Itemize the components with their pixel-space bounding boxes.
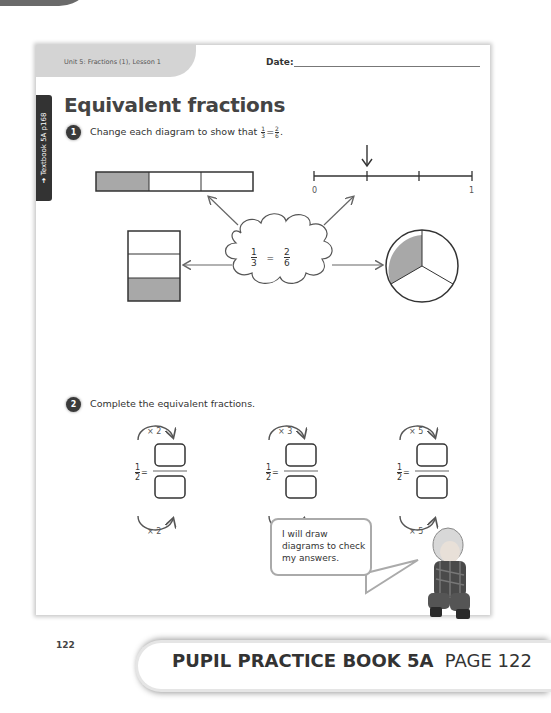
multiplier-bottom-3: × 5 (409, 527, 423, 536)
speech-tail (366, 560, 418, 593)
circle-diagram[interactable] (386, 230, 458, 302)
number-line-end: 1 (469, 186, 474, 195)
fraction-half-1: 12= (134, 463, 148, 482)
footer-caption: PUPIL PRACTICE BOOK 5A PAGE 122 (172, 650, 532, 671)
worksheet-page: Unit 5: Fractions (1), Lesson 1 Date: ➜ … (36, 45, 490, 615)
bar-model-diagram[interactable] (96, 172, 253, 191)
number-line-start: 0 (312, 186, 317, 195)
multiplier-top-3: × 5 (409, 427, 423, 436)
multiplier-top-1: × 2 (147, 427, 161, 436)
footer-book-title: PUPIL PRACTICE BOOK 5A (172, 650, 433, 671)
question-2-text: Complete the equivalent fractions. (90, 398, 255, 409)
vertical-bar-diagram[interactable] (128, 231, 180, 301)
footer-page-label: PAGE 122 (445, 650, 532, 671)
speech-bubble-text: I will draw diagrams to check my answers… (282, 528, 370, 564)
question-2-number: 2 (66, 397, 81, 412)
multiplier-bottom-1: × 2 (147, 527, 161, 536)
top-corner-decoration (0, 0, 95, 6)
arrow-to-bar-icon (209, 197, 238, 225)
cloud-equation: 13 = 26 (250, 247, 291, 268)
arrow-to-number-line-icon (324, 197, 353, 225)
multiplier-top-2: × 3 (278, 427, 292, 436)
fraction-half-3: 12= (396, 463, 410, 482)
character-illustration (428, 528, 470, 619)
page-number: 122 (56, 640, 75, 650)
speech-bubble: I will draw diagrams to check my answers… (270, 518, 372, 576)
fraction-half-2: 12= (265, 463, 279, 482)
number-line-diagram[interactable] (314, 145, 472, 181)
